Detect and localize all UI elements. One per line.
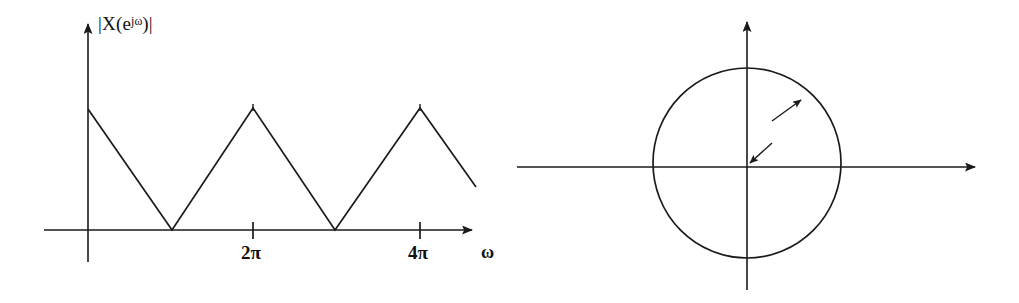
y-axis-label-tail: )| [142, 13, 153, 34]
x-tick-label-4pi: 4π [408, 243, 428, 262]
y-axis-label-head: |X(e [98, 13, 131, 34]
magnitude-waveform [88, 108, 476, 230]
dtft-magnitude-plot: |X(ejω)| 2π 4π ω [0, 0, 510, 303]
y-axis-label-exponent: jω [131, 14, 142, 28]
pointer-to-origin [750, 143, 772, 163]
x-axis-label: ω [481, 243, 494, 261]
unit-circle-svg [510, 0, 1019, 303]
unit-circle-plot: Im z Re z ω = 2(k+1)π ω = 2kπ |z| = 1 [510, 0, 1019, 303]
figure-root: |X(ejω)| 2π 4π ω [0, 0, 1019, 303]
pointer-to-circle [772, 100, 801, 121]
y-axis-label: |X(ejω)| [98, 14, 153, 33]
x-tick-label-2pi: 2π [241, 243, 261, 262]
